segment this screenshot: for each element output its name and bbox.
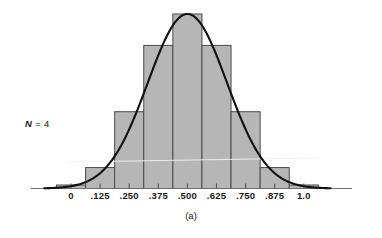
sample-size-annotation: N = 4 [25, 118, 49, 129]
histogram-plot [0, 0, 382, 238]
histogram-bar [202, 45, 231, 188]
x-axis-tick-label: .500 [178, 190, 197, 201]
x-axis-tick-label: .625 [207, 190, 226, 201]
x-axis-tick-label: .750 [236, 190, 255, 201]
x-axis-tick-label: 0 [68, 190, 73, 201]
x-axis-tick-label: 1.0 [297, 190, 311, 201]
histogram-bars [56, 14, 318, 189]
histogram-bar [173, 14, 202, 189]
figure-panel: 0.125.250.375.500.625.750.8751.0 N = 4 (… [0, 0, 382, 238]
x-axis-tick-label: .125 [90, 190, 109, 201]
panel-caption: (a) [185, 210, 197, 221]
sample-size-value: = 4 [32, 118, 49, 129]
x-axis-tick-label: .875 [265, 190, 284, 201]
x-axis-tick-label: .250 [120, 190, 139, 201]
x-axis-tick-label: .375 [149, 190, 168, 201]
histogram-bar [144, 45, 173, 188]
